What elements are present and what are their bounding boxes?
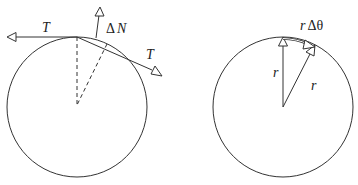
label-tension-left: T [42,20,51,35]
tension-right-arrowhead-icon [151,66,162,76]
radius-slanted-arrow-shaft [283,52,311,107]
left-diagram: T ΔN T [7,7,162,177]
arc-arrowhead-icon [303,40,315,49]
label-tension-right: T [146,47,155,62]
diagram-canvas: T ΔN T rΔθ r r [0,0,358,185]
label-r-delta-theta: rΔθ [300,18,323,33]
dashed-radius-slanted [77,44,107,105]
label-radius-slanted: r [311,78,317,93]
delta-n-arrow-shaft [96,15,99,38]
delta-n-arrowhead-icon [95,7,104,16]
right-diagram: rΔθ r r [213,18,353,177]
label-delta-n: ΔN [106,21,127,36]
diagram-svg: T ΔN T rΔθ r r [0,0,358,185]
label-radius-vertical: r [273,65,279,80]
tension-right-arrow-shaft [77,37,152,70]
tension-left-arrowhead-icon [7,33,16,42]
